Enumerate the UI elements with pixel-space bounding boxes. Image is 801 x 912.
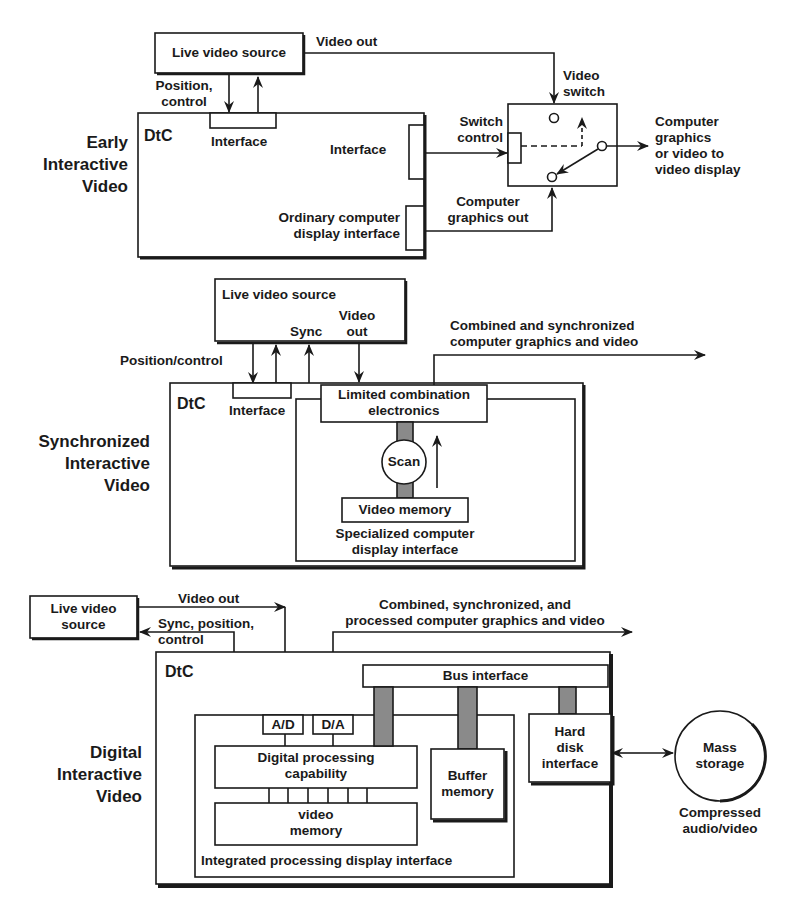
label-line: Sync, position, [158, 616, 254, 632]
label-line: Ordinary computer [250, 210, 400, 226]
panel-title: Digital Interactive Video [20, 742, 142, 808]
label-line: video [215, 807, 417, 823]
ad-converter-label: A/D [263, 717, 303, 733]
label-line: storage [675, 756, 765, 772]
hard-disk-interface-label: Hard disk interface [529, 724, 611, 772]
dtc-label: DtC [165, 664, 193, 680]
label-line: source [30, 617, 137, 633]
label-line: control [430, 130, 503, 146]
label-line: display interface [310, 542, 500, 558]
label-line: Digital processing [215, 750, 417, 766]
position-control-label: Position, control [148, 78, 220, 110]
label-line: computer graphics and video [450, 334, 638, 350]
label-line: Combined and synchronized [450, 318, 638, 334]
title-line: Digital [20, 742, 142, 764]
title-line: Interactive [20, 764, 142, 786]
sync-position-control-label: Sync, position, control [158, 616, 254, 648]
combined-output-label: Combined and synchronized computer graph… [450, 318, 638, 350]
live-video-source-label: Live video source [222, 287, 336, 303]
label-line: video display [655, 162, 741, 178]
panel-title: Synchronized Interactive Video [10, 431, 150, 497]
label-line: Compressed [670, 805, 770, 821]
label-line: or video to [655, 146, 741, 162]
label-line: audio/video [670, 821, 770, 837]
label-line: display interface [250, 226, 400, 242]
scan-label: Scan [382, 454, 426, 470]
live-video-source-label: Live video source [155, 45, 303, 61]
dtc-label: DtC [144, 128, 172, 144]
label-line: Position, [148, 78, 220, 94]
label-line: graphics out [440, 210, 536, 226]
title-line: Interactive [20, 154, 128, 176]
label-line: Switch [430, 114, 503, 130]
position-control-label: Position/control [120, 353, 223, 369]
video-switch-label: Video switch [563, 68, 605, 100]
label-line: Combined, synchronized, and [340, 597, 610, 613]
combination-electronics-label: Limited combination electronics [321, 387, 487, 419]
interface-top-label: Interface [211, 134, 267, 150]
label-line: Computer [440, 194, 536, 210]
label-line: memory [215, 823, 417, 839]
compressed-av-label: Compressed audio/video [670, 805, 770, 837]
label-line: control [158, 632, 254, 648]
mass-storage-label: Mass storage [675, 740, 765, 772]
title-line: Early [20, 132, 128, 154]
label-line: Limited combination [321, 387, 487, 403]
label-line: electronics [321, 403, 487, 419]
bus-interface-label: Bus interface [363, 668, 608, 684]
label-line: out [334, 324, 380, 340]
digital-processing-label: Digital processing capability [215, 750, 417, 782]
label-line: Live video [30, 601, 137, 617]
video-memory-label: Video memory [342, 502, 468, 518]
combined-output-label: Combined, synchronized, and processed co… [340, 597, 610, 629]
label-line: switch [563, 84, 605, 100]
title-line: Interactive [10, 453, 150, 475]
label-line: processed computer graphics and video [340, 613, 610, 629]
video-out-label: Video out [334, 308, 380, 340]
interface-right-label: Interface [330, 142, 386, 158]
interface-label: Interface [229, 403, 285, 419]
video-memory-label: video memory [215, 807, 417, 839]
dtc-label: DtC [177, 396, 205, 412]
label-line: Computer [655, 114, 741, 130]
video-out-label: Video out [316, 34, 377, 50]
label-line: interface [529, 756, 611, 772]
video-out-label: Video out [178, 591, 239, 607]
display-interface-label: Ordinary computer display interface [250, 210, 400, 242]
live-video-source-label: Live video source [30, 601, 137, 633]
label-line: graphics [655, 130, 741, 146]
label-line: Buffer [431, 768, 504, 784]
panel-title: Early Interactive Video [20, 132, 128, 198]
label-line: control [148, 94, 220, 110]
label-line: Hard [529, 724, 611, 740]
switch-control-label: Switch control [430, 114, 503, 146]
label-line: Video [563, 68, 605, 84]
label-line: Mass [675, 740, 765, 756]
graphics-out-label: Computer graphics out [440, 194, 536, 226]
buffer-memory-label: Buffer memory [431, 768, 504, 800]
title-line: Video [10, 475, 150, 497]
display-output-label: Computer graphics or video to video disp… [655, 114, 741, 178]
label-line: Specialized computer [310, 526, 500, 542]
integrated-interface-label: Integrated processing display interface [201, 853, 452, 869]
label-line: capability [215, 766, 417, 782]
label-line: disk [529, 740, 611, 756]
sync-label: Sync [290, 324, 322, 340]
title-line: Video [20, 176, 128, 198]
label-line: Video [334, 308, 380, 324]
title-line: Video [20, 786, 142, 808]
da-converter-label: D/A [313, 717, 353, 733]
label-line: memory [431, 784, 504, 800]
specialized-interface-label: Specialized computer display interface [310, 526, 500, 558]
title-line: Synchronized [10, 431, 150, 453]
